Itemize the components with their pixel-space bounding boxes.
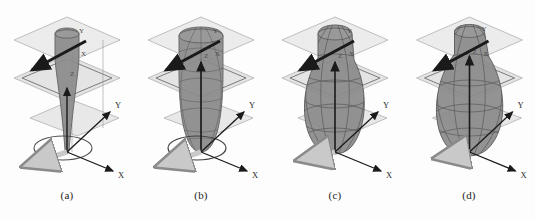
y-axis-label-b: Y [249, 100, 255, 110]
x-plane-label-c: X [349, 50, 354, 58]
light-arrow-d [436, 152, 470, 158]
base-ellipse-a [34, 136, 92, 160]
figure-container: Z Y X Y X (a) [0, 0, 535, 220]
y-axis-label-c: Y [383, 100, 389, 110]
x-axis-a [67, 152, 113, 171]
x-axis-c [335, 152, 381, 171]
y-axis-label-d: Y [518, 100, 524, 110]
z-axis-label-c: Z [338, 52, 342, 60]
panel-a-caption: (a) [0, 189, 134, 201]
light-arrow-c [298, 152, 335, 160]
panel-c-diagram: Z Y X Y X [268, 0, 402, 190]
panel-b: Z Y X Y X (b) [134, 0, 268, 220]
panel-b-caption: (b) [134, 189, 268, 201]
light-arrow-b [158, 152, 201, 166]
x-axis-label-c: X [386, 170, 392, 180]
panel-a-diagram: Z Y X Y X [0, 0, 134, 190]
y-plane-label-d: Y [482, 25, 487, 33]
panel-c-caption: (c) [268, 189, 402, 201]
x-plane-label-a: X [81, 50, 86, 58]
z-axis-label-a: Z [70, 70, 74, 78]
panel-d-diagram: Z Y X Y X [402, 0, 535, 190]
panel-a: Z Y X Y X (a) [0, 0, 134, 220]
light-arrow-a [24, 152, 67, 166]
y-plane-label-b: Y [213, 27, 218, 35]
x-axis-label-d: X [521, 170, 527, 180]
surface-top-cap-a [55, 30, 79, 38]
panel-b-diagram: Z Y X Y X [134, 0, 268, 190]
panel-d: Z Y X Y X (d) [402, 0, 535, 220]
x-axis-d [470, 152, 516, 171]
y-plane-label-c: Y [347, 27, 352, 35]
bottom-plane-a [30, 100, 119, 136]
panel-c: Z Y X Y X (c) [268, 0, 402, 220]
y-axis-label-a: Y [115, 100, 121, 110]
x-axis-label-b: X [252, 170, 258, 180]
x-plane-label-b: X [215, 50, 220, 58]
panel-d-caption: (d) [402, 189, 535, 201]
y-plane-label-a: Y [79, 27, 84, 35]
z-axis-label-b: Z [204, 52, 208, 60]
x-axis-label-a: X [118, 170, 124, 180]
x-plane-label-d: X [484, 50, 489, 58]
x-axis-b [201, 152, 247, 171]
